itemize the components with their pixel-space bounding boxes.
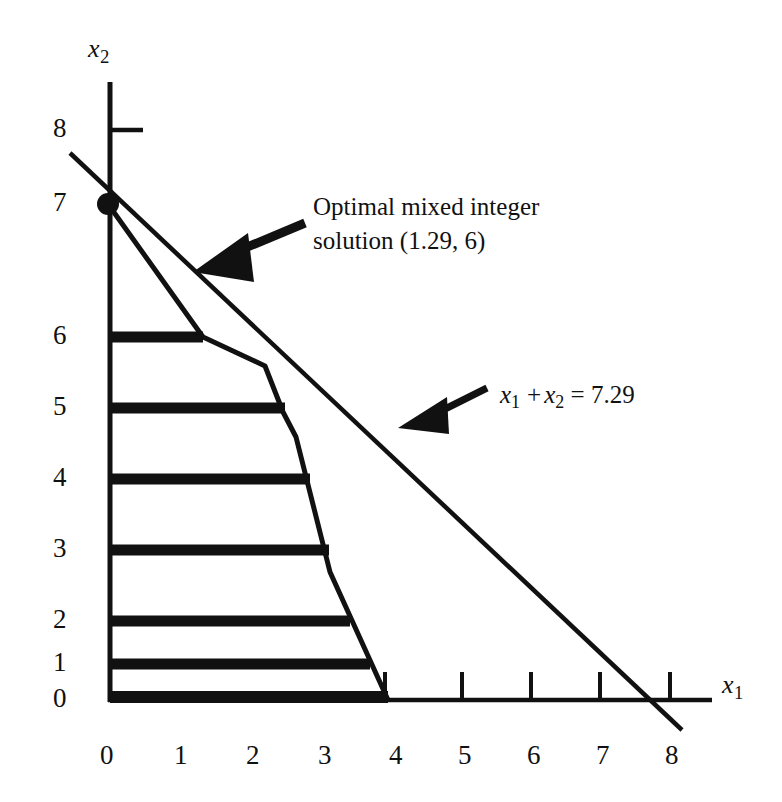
optimal-solution-annotation: Optimal mixed integer solution (1.29, 6): [313, 190, 539, 257]
y-tick-label-0: 0: [53, 685, 67, 712]
vertex-point-0-7: [97, 193, 119, 215]
objective-arrow-shaft: [443, 388, 487, 410]
y-tick-label-8: 8: [53, 115, 67, 142]
objective-eq-sub1: 1: [511, 392, 520, 412]
y-tick-label-1: 1: [53, 649, 67, 676]
y-axis-title: x2: [88, 36, 109, 66]
optimal-solution-line-2: solution (1.29, 6): [313, 224, 539, 258]
objective-eq-var1: x: [500, 381, 511, 408]
objective-eq-sub2: 2: [555, 392, 564, 412]
figure-canvas: x2 x1 8 7 6 5 4 3 2 1 0 0 1 2 3 4 5 6 7 …: [0, 0, 782, 802]
y-tick-label-4: 4: [53, 464, 67, 491]
y-tick-label-3: 3: [53, 535, 67, 562]
objective-equation-label: x1+x2 = 7.29: [500, 382, 635, 411]
objective-arrow-head: [398, 397, 449, 434]
x-tick-label-1: 1: [174, 742, 188, 769]
y-tick-label-2: 2: [53, 606, 67, 633]
x-tick-label-0: 0: [100, 742, 114, 769]
y-tick-label-7: 7: [53, 189, 67, 216]
x-tick-label-2: 2: [246, 742, 260, 769]
objective-line-arrow: [398, 388, 487, 434]
x-axis-title-sub: 1: [734, 682, 744, 703]
x-tick-label-5: 5: [458, 742, 472, 769]
objective-eq-var2: x: [544, 381, 555, 408]
optimal-solution-arrow: [193, 223, 305, 282]
optimal-solution-line-1: Optimal mixed integer: [313, 190, 539, 224]
x-axis-title: x1: [722, 672, 743, 702]
x-tick-label-8: 8: [665, 742, 679, 769]
objective-eq-rhs: = 7.29: [571, 381, 635, 408]
y-tick-label-6: 6: [53, 322, 67, 349]
x-tick-label-6: 6: [527, 742, 541, 769]
x-axis-title-var: x: [722, 670, 734, 699]
y-axis-title-var: x: [88, 34, 100, 63]
x-tick-label-4: 4: [389, 742, 403, 769]
plot-area: [0, 0, 782, 802]
feasible-region-hatching: [110, 337, 370, 664]
y-axis-title-sub: 2: [100, 46, 110, 67]
y-tick-label-5: 5: [53, 393, 67, 420]
x-tick-label-3: 3: [318, 742, 332, 769]
objective-eq-operator: +: [520, 381, 544, 408]
x-tick-label-7: 7: [596, 742, 610, 769]
